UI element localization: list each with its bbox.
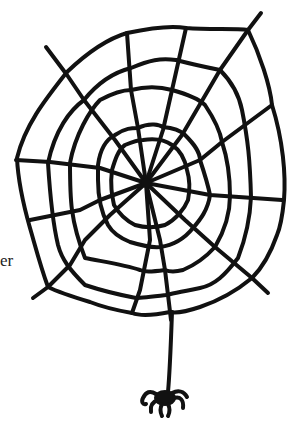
illustration: er (0, 0, 298, 435)
web-spoke (146, 183, 282, 200)
web-spoke (30, 183, 146, 220)
web-spoke (16, 160, 146, 183)
web-spoke (146, 28, 186, 183)
partial-caption-text: er (0, 252, 13, 269)
spider-thread (168, 312, 172, 392)
web-hub (141, 178, 151, 188)
spider-icon (142, 390, 187, 416)
spider-web-drawing (0, 0, 298, 435)
